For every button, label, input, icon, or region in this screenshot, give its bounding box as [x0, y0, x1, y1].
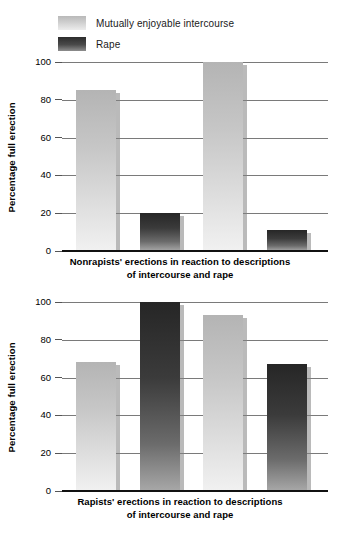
y-tick-mark — [55, 377, 62, 378]
y-tick-40: 40 — [20, 169, 62, 181]
bar-light-68 — [76, 362, 116, 491]
y-tick-label: 100 — [35, 296, 51, 308]
caption-top: Nonrapists' erections in reaction to des… — [40, 256, 320, 281]
y-tick-label: 40 — [40, 169, 51, 181]
bar-light-85 — [76, 90, 116, 251]
y-tick-mark — [55, 137, 62, 138]
caption-bottom-line2: of intercourse and rape — [40, 509, 320, 522]
chart-rapists: Percentage full erection 020406080100 Ra… — [0, 302, 341, 534]
bar-shadow — [243, 318, 247, 491]
y-tick-mark — [55, 251, 62, 252]
bar-dark-100 — [140, 302, 180, 491]
plot-canvas-bottom — [62, 302, 328, 492]
y-tick-60: 60 — [20, 372, 62, 384]
y-tick-label: 40 — [40, 409, 51, 421]
y-tick-mark — [55, 62, 62, 63]
bar-dark-20 — [140, 213, 180, 251]
caption-top-line1: Nonrapists' erections in reaction to des… — [40, 256, 320, 269]
caption-top-line2: of intercourse and rape — [40, 269, 320, 282]
legend-item-rape: Rape — [58, 35, 318, 53]
y-tick-label: 80 — [40, 334, 51, 346]
y-axis-label-bottom: Percentage full erection — [4, 302, 18, 492]
bar-group-top — [62, 62, 328, 251]
bar-shadow — [180, 216, 184, 251]
legend-label-rape: Rape — [96, 39, 120, 50]
legend-item-intercourse: Mutually enjoyable intercourse — [58, 14, 318, 32]
bar-shadow — [243, 65, 247, 251]
y-tick-label: 60 — [40, 372, 51, 384]
bar-shadow — [307, 367, 311, 491]
y-tick-100: 100 — [20, 296, 62, 308]
x-axis-line-top — [62, 250, 328, 252]
bar-shadow — [116, 93, 120, 251]
y-tick-mark — [55, 339, 62, 340]
y-tick-80: 80 — [20, 94, 62, 106]
bar-light-100 — [203, 62, 243, 251]
y-axis-ticks-bottom: 020406080100 — [20, 302, 62, 492]
chart-nonrapists: Percentage full erection 020406080100 No… — [0, 62, 341, 278]
bar-light-93 — [203, 315, 243, 491]
y-tick-mark — [55, 491, 62, 492]
y-tick-60: 60 — [20, 132, 62, 144]
bar-shadow — [180, 305, 184, 491]
legend-swatch-dark-icon — [58, 37, 86, 51]
legend-swatch-light-icon — [58, 16, 86, 30]
bar-dark-67 — [267, 364, 307, 491]
y-tick-mark — [55, 453, 62, 454]
y-tick-label: 20 — [40, 447, 51, 459]
y-tick-mark — [55, 302, 62, 303]
y-tick-label: 80 — [40, 94, 51, 106]
y-axis-ticks-top: 020406080100 — [20, 62, 62, 252]
y-tick-20: 20 — [20, 207, 62, 219]
chart-legend: Mutually enjoyable intercourse Rape — [58, 14, 318, 56]
y-tick-100: 100 — [20, 56, 62, 68]
legend-label-intercourse: Mutually enjoyable intercourse — [96, 18, 234, 29]
y-tick-label: 100 — [35, 56, 51, 68]
plot-area-bottom: 020406080100 — [20, 302, 330, 492]
bar-shadow — [116, 365, 120, 491]
bar-shadow — [307, 233, 311, 251]
y-tick-label: 20 — [40, 207, 51, 219]
y-tick-mark — [55, 415, 62, 416]
plot-area-top: 020406080100 — [20, 62, 330, 252]
x-axis-line-bottom — [62, 490, 328, 492]
bar-group-bottom — [62, 302, 328, 491]
bar-dark-11 — [267, 230, 307, 251]
y-tick-mark — [55, 99, 62, 100]
y-tick-label: 60 — [40, 132, 51, 144]
y-tick-mark — [55, 175, 62, 176]
y-tick-20: 20 — [20, 447, 62, 459]
y-axis-label-top: Percentage full erection — [4, 62, 18, 252]
y-tick-40: 40 — [20, 409, 62, 421]
plot-canvas-top — [62, 62, 328, 252]
caption-bottom-line1: Rapists' erections in reaction to descri… — [40, 496, 320, 509]
caption-bottom: Rapists' erections in reaction to descri… — [40, 496, 320, 521]
y-tick-80: 80 — [20, 334, 62, 346]
y-tick-mark — [55, 213, 62, 214]
